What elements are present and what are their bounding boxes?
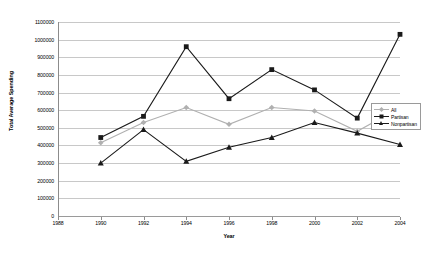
gridline — [58, 93, 400, 94]
x-tick-label: 2000 — [309, 220, 320, 226]
gridline — [58, 145, 400, 146]
x-tick-mark — [58, 217, 59, 220]
y-tick-label: 200000 — [37, 178, 54, 184]
x-tick-label: 1996 — [223, 220, 234, 226]
x-tick-label: 1992 — [138, 220, 149, 226]
gridline — [58, 75, 400, 76]
y-tick-label: 700000 — [37, 90, 54, 96]
x-tick-mark — [229, 217, 230, 220]
legend-label: Partisan — [391, 114, 409, 120]
plot-area — [58, 22, 400, 216]
x-tick-label: 2004 — [394, 220, 405, 226]
legend-item: Partisan — [374, 113, 417, 120]
gridline — [58, 163, 400, 164]
y-tick-label: 900000 — [37, 54, 54, 60]
y-tick-label: 800000 — [37, 72, 54, 78]
y-tick-label: 300000 — [37, 160, 54, 166]
legend-label: Nonpartisan — [391, 121, 417, 127]
gridline — [58, 198, 400, 199]
x-tick-mark — [144, 217, 145, 220]
x-tick-mark — [186, 217, 187, 220]
chart-container: 0100000200000300000400000500000600000700… — [0, 0, 444, 255]
gridline — [58, 57, 400, 58]
y-tick-label: 1000000 — [35, 37, 55, 43]
x-tick-label: 1988 — [52, 220, 63, 226]
x-axis-title: Year — [58, 233, 400, 239]
y-tick-label: 0 — [51, 213, 54, 219]
chart-legend: AllPartisanNonpartisan — [371, 103, 421, 130]
x-tick-label: 1990 — [95, 220, 106, 226]
gridline — [58, 22, 400, 23]
legend-item: Nonpartisan — [374, 120, 417, 127]
y-axis-line — [58, 22, 59, 217]
gridline — [58, 181, 400, 182]
gridline — [58, 110, 400, 111]
x-tick-label: 1994 — [181, 220, 192, 226]
legend-marker-icon — [374, 113, 389, 120]
y-axis-title: Total Average Spending — [8, 46, 14, 156]
x-tick-label: 1998 — [266, 220, 277, 226]
x-tick-mark — [357, 217, 358, 220]
x-tick-mark — [315, 217, 316, 220]
legend-item: All — [374, 106, 417, 113]
x-tick-mark — [272, 217, 273, 220]
x-tick-label: 2002 — [352, 220, 363, 226]
x-tick-mark — [400, 217, 401, 220]
x-tick-mark — [101, 217, 102, 220]
y-tick-label: 400000 — [37, 142, 54, 148]
gridline — [58, 40, 400, 41]
y-tick-label: 600000 — [37, 107, 54, 113]
legend-marker-icon — [374, 106, 389, 113]
y-tick-label: 500000 — [37, 125, 54, 131]
legend-label: All — [391, 107, 396, 113]
y-tick-label: 100000 — [37, 195, 54, 201]
x-axis-tick-labels: 198819901992199419961998200020022004 — [58, 220, 400, 230]
legend-marker-icon — [374, 120, 389, 127]
gridline — [58, 128, 400, 129]
y-tick-label: 1100000 — [35, 19, 54, 25]
